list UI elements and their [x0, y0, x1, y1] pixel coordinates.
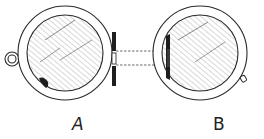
- hinge-plate-b: [166, 34, 170, 80]
- hinge-plate-a: [112, 32, 116, 86]
- component-a: [5, 6, 116, 100]
- component-b: [153, 6, 247, 100]
- eyelet-loop-icon: [5, 52, 19, 66]
- label-a: A: [72, 116, 84, 133]
- label-b: B: [213, 116, 225, 133]
- diagram-canvas: A B: [0, 0, 264, 139]
